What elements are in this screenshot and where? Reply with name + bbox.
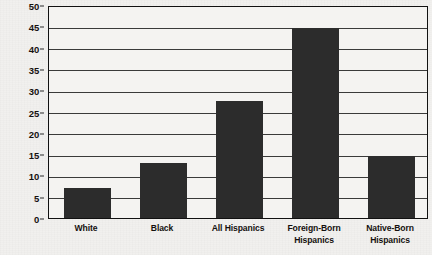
bar — [140, 163, 187, 218]
y-tick-mark — [40, 27, 44, 28]
x-tick-label: All Hispanics — [200, 223, 276, 235]
bar — [64, 188, 111, 218]
bar-chart: 05101520253035404550 WhiteBlackAll Hispa… — [0, 0, 432, 255]
x-tick-label: Foreign-Born Hispanics — [276, 223, 352, 246]
bars-group — [49, 7, 427, 218]
y-tick-label: 20 — [29, 128, 39, 139]
bar — [216, 101, 263, 218]
y-tick-mark — [40, 155, 44, 156]
x-axis: WhiteBlackAll HispanicsForeign-Born Hisp… — [48, 223, 428, 255]
y-tick-label: 30 — [29, 86, 39, 97]
x-tick-label: Native-Born Hispanics — [352, 223, 428, 246]
y-tick-label: 35 — [29, 64, 39, 75]
y-axis: 05101520253035404550 — [0, 6, 44, 219]
y-tick-label: 25 — [29, 107, 39, 118]
y-tick-label: 45 — [29, 22, 39, 33]
y-tick-label: 50 — [29, 1, 39, 12]
y-tick-label: 40 — [29, 43, 39, 54]
x-tick-label: White — [48, 223, 124, 235]
bar — [368, 156, 415, 218]
y-tick-label: 15 — [29, 150, 39, 161]
x-tick-label: Black — [124, 223, 200, 235]
bar — [292, 28, 339, 218]
y-tick-mark — [40, 112, 44, 113]
y-tick-label: 0 — [34, 214, 39, 225]
y-tick-mark — [40, 6, 44, 7]
y-tick-label: 5 — [34, 192, 39, 203]
y-tick-mark — [40, 69, 44, 70]
y-tick-mark — [40, 91, 44, 92]
y-tick-mark — [40, 133, 44, 134]
y-tick-mark — [40, 176, 44, 177]
y-tick-label: 10 — [29, 171, 39, 182]
y-tick-mark — [40, 197, 44, 198]
plot-area — [48, 6, 428, 219]
y-tick-mark — [40, 48, 44, 49]
y-tick-mark — [40, 219, 44, 220]
